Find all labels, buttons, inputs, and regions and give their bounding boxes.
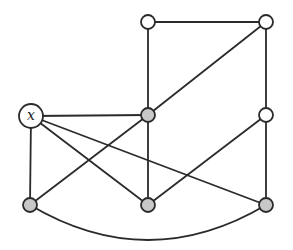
nodes-layer: x (19, 15, 273, 212)
node-bottom-right (259, 198, 273, 212)
node-circle (141, 198, 155, 212)
node-top-right (259, 15, 273, 29)
edge-mid-right-bottom-center (148, 115, 266, 205)
graph-canvas: x (0, 0, 293, 250)
node-label: x (27, 107, 35, 123)
edge-top-right-mid-center (148, 22, 266, 115)
node-circle (141, 15, 155, 29)
node-bottom-center (141, 198, 155, 212)
node-bottom-left (23, 198, 37, 212)
node-x: x (19, 104, 43, 128)
node-circle (23, 198, 37, 212)
node-circle (259, 15, 273, 29)
node-mid-right (259, 108, 273, 122)
edge-x-bottom-left (30, 116, 31, 205)
node-top-left (141, 15, 155, 29)
edge-x-mid-center (31, 115, 148, 116)
node-circle (141, 108, 155, 122)
node-circle (259, 198, 273, 212)
node-circle (259, 108, 273, 122)
node-mid-center (141, 108, 155, 122)
graph-diagram: x (0, 0, 293, 250)
